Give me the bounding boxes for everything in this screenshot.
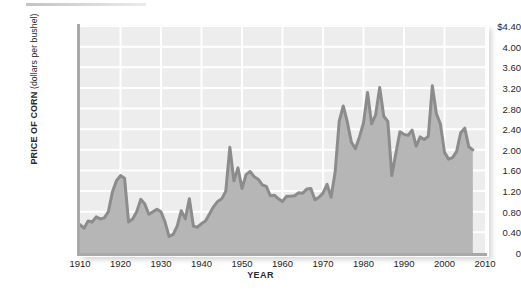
y-tick-label: 3.60 — [447, 62, 521, 73]
y-tick-label: 2.80 — [447, 103, 521, 114]
y-tick-label: 2.40 — [447, 124, 521, 135]
y-tick-label: 0.40 — [447, 227, 521, 238]
plot-area — [80, 26, 485, 253]
price-area-fill — [80, 86, 473, 253]
y-axis-title: PRICE OF CORN (dollars per bushel) — [29, 0, 39, 189]
x-tick-label: 1940 — [191, 258, 212, 269]
x-tick-label: 1910 — [69, 258, 90, 269]
x-tick-label: 1930 — [150, 258, 171, 269]
y-axis-title-light: (dollars per bushel) — [29, 14, 39, 90]
x-tick-label: 1990 — [393, 258, 414, 269]
y-axis-title-bold: PRICE OF CORN — [29, 92, 39, 165]
x-tick-label: 1920 — [110, 258, 131, 269]
x-axis-title: YEAR — [0, 270, 521, 280]
x-tick-label: 1970 — [312, 258, 333, 269]
x-tick-label: 2010 — [474, 258, 495, 269]
y-tick-label: 2.00 — [447, 144, 521, 155]
y-tick-label: 4.00 — [447, 41, 521, 52]
x-tick-label: 1980 — [353, 258, 374, 269]
x-tick-label: 1950 — [231, 258, 252, 269]
x-tick-label: 1960 — [272, 258, 293, 269]
x-tick-label: 2000 — [434, 258, 455, 269]
y-axis-line — [77, 24, 80, 255]
x-axis-line — [77, 253, 487, 256]
y-tick-label: 3.20 — [447, 82, 521, 93]
chart-canvas — [80, 26, 485, 253]
corn-price-chart-figure: PRICE OF CORN (dollars per bushel) $4.40… — [0, 0, 521, 295]
y-tick-label: 1.20 — [447, 186, 521, 197]
y-tick-label: 0.80 — [447, 206, 521, 217]
top-rule-decoration — [26, 3, 146, 6]
y-tick-label: 1.60 — [447, 165, 521, 176]
y-tick-label: $4.40 — [447, 21, 521, 32]
y-tick-label: 0 — [447, 248, 521, 259]
